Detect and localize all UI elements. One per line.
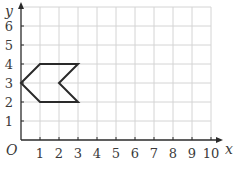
x-axis-label: x [225, 141, 233, 157]
x-tick-label: 10 [203, 146, 220, 161]
y-tick-label: 2 [5, 95, 13, 110]
y-tick-label: 1 [5, 114, 13, 129]
y-tick-label: 5 [5, 38, 13, 53]
y-tick-label: 4 [5, 57, 13, 72]
x-tick-label: 2 [55, 146, 63, 161]
x-tick-label: 8 [169, 146, 177, 161]
y-tick-label: 3 [5, 76, 13, 91]
x-tick-label: 6 [131, 146, 139, 161]
x-tick-label: 7 [150, 146, 158, 161]
x-tick-label: 5 [112, 146, 120, 161]
x-axis-arrow-icon [216, 137, 223, 143]
y-tick-label: 6 [5, 19, 13, 34]
coordinate-grid: 12345678910123456 x y O [0, 0, 242, 169]
x-tick-label: 1 [36, 146, 44, 161]
x-tick-label: 3 [74, 146, 82, 161]
x-tick-label: 9 [188, 146, 196, 161]
origin-label: O [6, 142, 18, 158]
grid-lines [21, 7, 211, 140]
y-axis-label: y [4, 3, 14, 19]
x-tick-label: 4 [93, 146, 101, 161]
y-axis-arrow-icon [18, 2, 24, 9]
